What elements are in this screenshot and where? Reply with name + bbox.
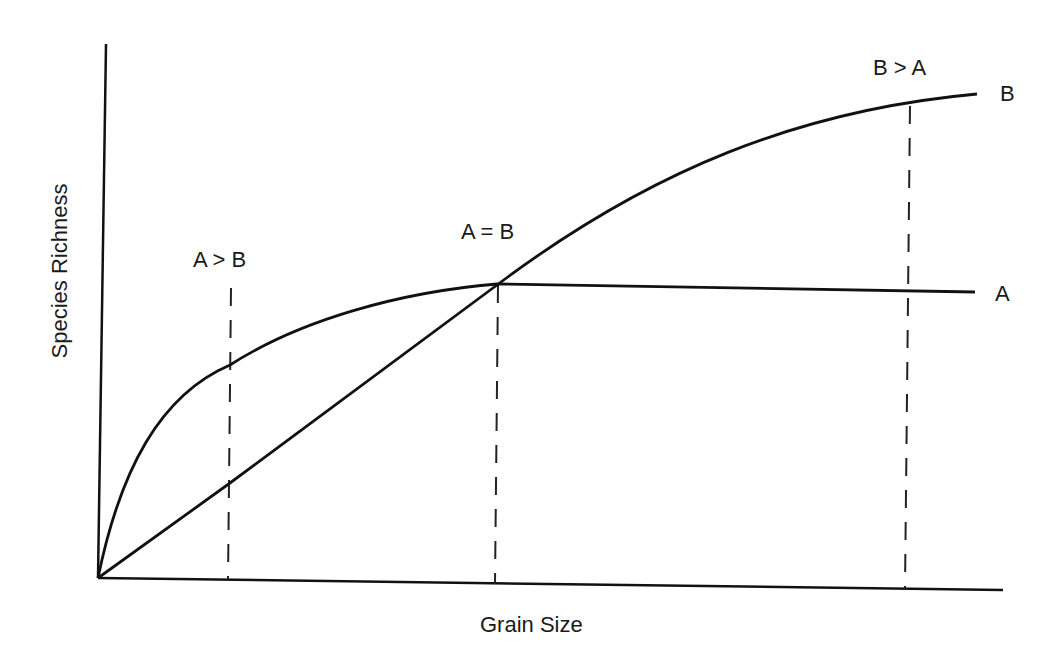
- y-axis-label: Species Richness: [47, 171, 73, 371]
- marker-a-eq-b: [495, 285, 498, 584]
- y-axis: [98, 44, 106, 578]
- chart-canvas: [0, 0, 1064, 672]
- annotation-a-gt-b: A > B: [193, 247, 246, 273]
- x-axis: [98, 578, 1003, 590]
- annotation-a-eq-b: A = B: [461, 219, 514, 245]
- series-b-label: B: [1000, 81, 1015, 107]
- annotation-b-gt-a: B > A: [873, 55, 926, 81]
- series-a-label: A: [995, 281, 1010, 307]
- marker-b-gt-a: [905, 106, 910, 589]
- x-axis-label: Grain Size: [480, 612, 583, 638]
- marker-a-gt-b: [228, 288, 231, 581]
